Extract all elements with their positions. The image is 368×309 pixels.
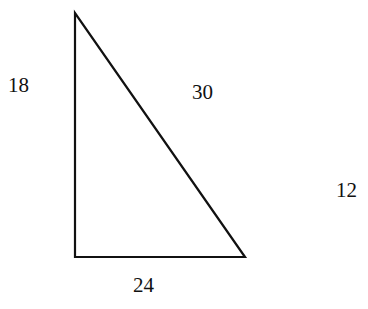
triangle-diagram: 18 30 12 24 (0, 0, 368, 309)
label-hypotenuse: 30 (192, 80, 213, 104)
right-triangle (75, 13, 245, 257)
label-right-free: 12 (336, 178, 357, 202)
label-left-side: 18 (8, 73, 29, 97)
label-bottom-side: 24 (133, 273, 155, 297)
